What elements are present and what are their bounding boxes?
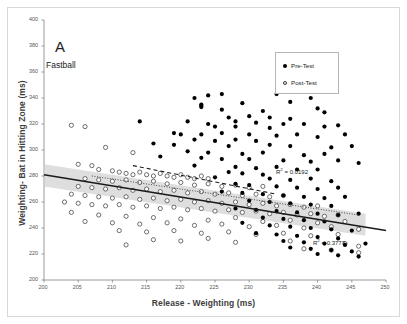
legend-box: Pre-Test Post-Test (275, 52, 339, 94)
figure-container: Pre-Test Post-Test A Fastball Weighting-… (0, 0, 407, 324)
x-tick-label: 215 (135, 284, 157, 290)
y-tick-label: 320 (22, 120, 38, 126)
x-tick-label: 225 (203, 284, 225, 290)
x-axis-title: Release - Weighting (ms) (0, 298, 407, 308)
y-tick-label: 200 (22, 276, 38, 282)
x-tick-label: 210 (100, 284, 122, 290)
x-tick-label: 245 (340, 284, 362, 290)
legend-item-post-test: Post-Test (283, 79, 317, 86)
open-circle-icon (283, 81, 287, 85)
panel-letter: A (55, 38, 65, 55)
y-tick-label: 260 (22, 198, 38, 204)
y-tick-label: 280 (22, 172, 38, 178)
y-tick-label: 220 (22, 250, 38, 256)
x-tick-label: 200 (32, 284, 54, 290)
x-tick-label: 205 (66, 284, 88, 290)
legend-item-pre-test: Pre-Test (283, 62, 314, 69)
y-tick-label: 360 (22, 68, 38, 74)
scatter-plot-canvas (8, 8, 401, 318)
r-squared-post-test: R2 = 0.3777 (313, 238, 345, 246)
x-tick-label: 235 (271, 284, 293, 290)
x-tick-label: 220 (169, 284, 191, 290)
r-squared-pre-test: R2 = 0.0192 (276, 167, 308, 175)
pitch-type-label: Fastball (46, 60, 76, 70)
y-tick-label: 340 (22, 94, 38, 100)
y-tick-label: 380 (22, 42, 38, 48)
y-tick-label: 400 (22, 16, 38, 22)
figure-frame: Pre-Test Post-Test (7, 7, 400, 317)
legend-label-pre-test: Pre-Test (291, 62, 314, 69)
x-tick-label: 240 (306, 284, 328, 290)
x-tick-label: 230 (237, 284, 259, 290)
y-tick-label: 240 (22, 224, 38, 230)
filled-circle-icon (283, 64, 287, 68)
legend-label-post-test: Post-Test (291, 79, 317, 86)
y-tick-label: 300 (22, 146, 38, 152)
x-tick-label: 250 (374, 284, 396, 290)
